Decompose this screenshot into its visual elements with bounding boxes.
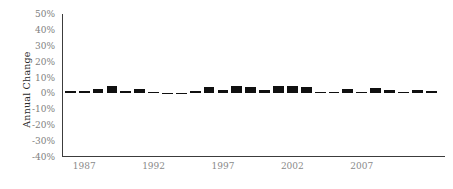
x-axis-tick-labels: 19871992199720022007 [0,0,453,189]
x-tick-label: 2007 [350,161,373,171]
x-tick-label: 2002 [281,161,304,171]
annual-change-chart: Annual Change 50%40%30%20%10%0%-10%-20%-… [0,0,453,189]
x-tick-label: 1987 [73,161,96,171]
x-tick-label: 1997 [212,161,235,171]
x-tick-label: 1992 [142,161,165,171]
